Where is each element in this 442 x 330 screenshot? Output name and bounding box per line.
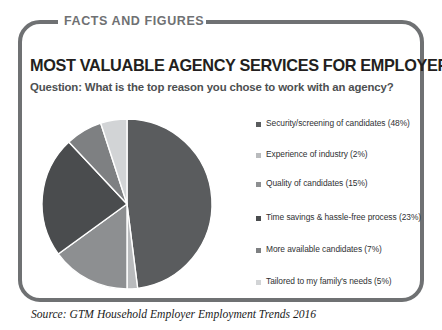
legend-item-label: Experience of industry (2%)	[266, 149, 368, 160]
legend-swatch-icon	[256, 280, 261, 285]
card-eyebrow-label: FACTS AND FIGURES	[64, 14, 204, 28]
page-subtitle: Question: What is the top reason you cho…	[30, 81, 422, 93]
pie-chart-svg	[36, 118, 218, 290]
legend-item: Tailored to my family's needs (5%)	[256, 276, 436, 287]
legend-item: Experience of industry (2%)	[256, 149, 436, 160]
legend-item-label: Time savings & hassle-free process (23%)	[266, 212, 421, 223]
legend-item: Time savings & hassle-free process (23%)	[256, 212, 436, 223]
facts-and-figures-card: FACTS AND FIGURES MOST VALUABLE AGENCY S…	[0, 0, 442, 330]
legend-swatch-icon	[256, 182, 261, 187]
source-caption: Source: GTM Household Employer Employmen…	[31, 308, 316, 321]
legend-item-label: Tailored to my family's needs (5%)	[266, 276, 392, 287]
legend-item: More available candidates (7%)	[256, 244, 436, 255]
legend-item-label: Quality of candidates (15%)	[266, 178, 368, 189]
page-title: MOST VALUABLE AGENCY SERVICES FOR EMPLOY…	[30, 56, 420, 75]
legend-swatch-icon	[256, 122, 261, 127]
chart-legend: Security/screening of candidates (48%)Ex…	[256, 118, 436, 290]
legend-item: Security/screening of candidates (48%)	[256, 118, 436, 129]
legend-item-label: Security/screening of candidates (48%)	[266, 118, 410, 129]
legend-swatch-icon	[256, 153, 261, 158]
legend-item: Quality of candidates (15%)	[256, 178, 436, 189]
pie-chart	[36, 118, 218, 290]
legend-swatch-icon	[256, 248, 261, 253]
legend-item-label: More available candidates (7%)	[266, 244, 382, 255]
legend-swatch-icon	[256, 216, 261, 221]
pie-slice	[127, 119, 212, 288]
